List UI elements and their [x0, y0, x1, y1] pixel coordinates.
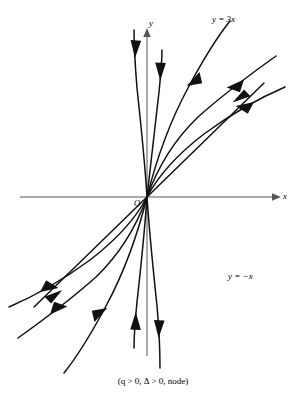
trajectory-q1-b	[147, 56, 276, 197]
trajectory-arrowhead	[233, 89, 251, 102]
line-label-y-equals-3x: y = 3x	[212, 15, 235, 24]
trajectory-arrowhead	[155, 63, 166, 81]
trajectory-arrowhead	[45, 290, 63, 303]
trajectory-path	[147, 197, 160, 368]
trajectory-q1-c	[147, 87, 285, 197]
figure-caption: (q > 0, Δ > 0, node)	[0, 376, 306, 386]
trajectory-q2-near-vertical	[131, 30, 147, 197]
y-axis-arrowhead	[143, 28, 150, 37]
trajectory-arrowhead	[131, 40, 142, 58]
trajectory-path	[18, 197, 147, 338]
phase-portrait-figure: x y O y = 3x y = −x (q > 0, Δ > 0, node)	[0, 0, 306, 412]
trajectory-path	[147, 21, 230, 197]
y-axis-label: y	[149, 19, 153, 28]
trajectory-arrowhead	[154, 320, 165, 338]
trajectory-q1-a	[147, 21, 230, 197]
x-axis-label: x	[283, 192, 287, 201]
trajectory-q3-c	[9, 197, 147, 307]
trajectory-arrowhead	[92, 308, 108, 322]
line-label-y-equals-negative-x: y = −x	[228, 272, 253, 281]
trajectory-arrowhead	[187, 72, 203, 86]
trajectory-path	[147, 87, 285, 197]
trajectory-arrowhead	[130, 312, 141, 330]
phase-portrait-canvas	[0, 0, 306, 412]
x-axis-arrowhead	[272, 193, 281, 200]
origin-label: O	[134, 199, 140, 208]
trajectory-q3-b	[18, 197, 147, 338]
trajectory-path	[147, 56, 276, 197]
trajectory-path	[9, 197, 147, 307]
trajectory-q4-near-vertical	[147, 197, 165, 368]
